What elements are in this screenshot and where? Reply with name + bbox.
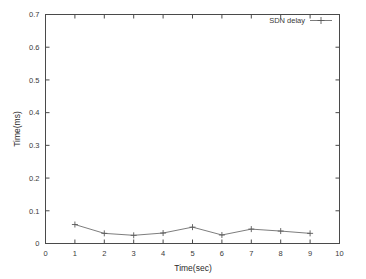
- legend: SDN delay: [269, 16, 332, 25]
- y-axis-title: Time(ms): [12, 111, 22, 147]
- x-tick-label: 4: [161, 249, 165, 258]
- y-axis-ticks: 00.10.20.30.40.50.60.7: [29, 10, 339, 248]
- series-point-marker: [190, 224, 196, 230]
- legend-label-sdn-delay: SDN delay: [269, 16, 305, 25]
- y-tick-label: 0.3: [29, 141, 39, 150]
- x-tick-label: 7: [249, 249, 253, 258]
- legend-sample-marker: [318, 17, 325, 24]
- x-tick-label: 8: [279, 249, 283, 258]
- series-point-marker: [278, 228, 284, 234]
- series-point-marker: [219, 232, 225, 238]
- x-tick-label: 9: [308, 249, 312, 258]
- y-tick-label: 0.2: [29, 174, 39, 183]
- x-tick-label: 0: [43, 249, 47, 258]
- series-point-marker: [307, 230, 313, 236]
- series-point-marker: [160, 230, 166, 236]
- x-tick-label: 3: [132, 249, 136, 258]
- data-series-group: [72, 222, 313, 239]
- y-tick-label: 0.7: [29, 10, 39, 19]
- x-tick-label: 6: [220, 249, 224, 258]
- chart-page: 00.10.20.30.40.50.60.7 012345678910 SDN …: [0, 0, 366, 279]
- x-tick-label: 10: [335, 249, 343, 258]
- x-tick-label: 2: [102, 249, 106, 258]
- series-point-marker: [131, 232, 137, 238]
- y-tick-label: 0: [35, 239, 39, 248]
- series-point-marker: [72, 222, 78, 228]
- x-tick-label: 5: [190, 249, 194, 258]
- series-point-marker: [101, 230, 107, 236]
- y-tick-label: 0.6: [29, 43, 39, 52]
- x-axis-title: Time(sec): [174, 263, 212, 273]
- y-tick-label: 0.1: [29, 207, 39, 216]
- y-tick-label: 0.5: [29, 76, 39, 85]
- plot-frame: [46, 15, 340, 244]
- x-tick-label: 1: [73, 249, 77, 258]
- line-chart: 00.10.20.30.40.50.60.7 012345678910 SDN …: [0, 0, 366, 279]
- series-point-marker: [248, 226, 254, 232]
- x-axis-ticks: 012345678910: [43, 15, 343, 258]
- y-tick-label: 0.4: [29, 108, 39, 117]
